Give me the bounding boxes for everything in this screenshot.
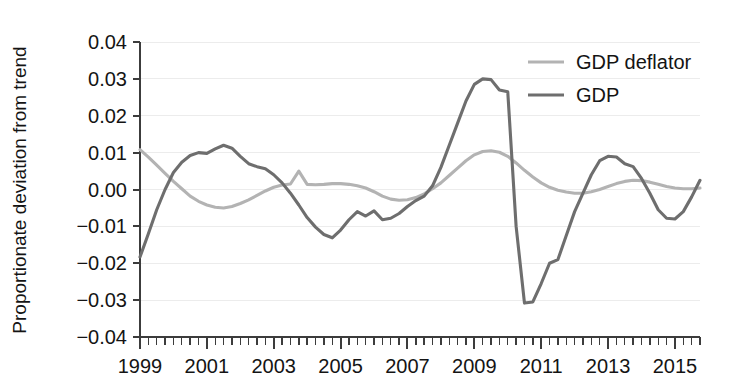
y-tick-label: 0.00 — [88, 179, 127, 201]
x-tick-label: 2015 — [653, 355, 698, 377]
y-tick-label: −0.02 — [76, 252, 127, 274]
y-tick-label: 0.02 — [88, 105, 127, 127]
x-tick-label: 2009 — [452, 355, 497, 377]
y-tick-label: 0.03 — [88, 68, 127, 90]
line-chart: 0.040.030.020.010.00−0.01−0.02−0.03−0.04… — [0, 0, 742, 389]
y-tick-label: −0.01 — [76, 215, 127, 237]
x-tick-label: 2013 — [586, 355, 631, 377]
y-tick-label: −0.03 — [76, 289, 127, 311]
y-tick-label: 0.01 — [88, 142, 127, 164]
x-tick-label: 2007 — [385, 355, 430, 377]
legend-label-gdp: GDP — [576, 84, 619, 106]
x-tick-label: 2005 — [318, 355, 363, 377]
x-axis-tick-labels: 199920012003200520072009201120132015 — [118, 355, 697, 377]
y-tick-label: 0.04 — [88, 31, 127, 53]
y-axis-title: Proportionate deviation from trend — [9, 46, 30, 333]
x-tick-label: 2003 — [251, 355, 296, 377]
x-tick-label: 2001 — [185, 355, 230, 377]
chart-container: 0.040.030.020.010.00−0.01−0.02−0.03−0.04… — [0, 0, 742, 389]
x-tick-label: 2011 — [520, 355, 563, 377]
legend-label-gdp-deflator: GDP deflator — [576, 51, 692, 73]
y-tick-label: −0.04 — [76, 326, 127, 348]
x-tick-label: 1999 — [118, 355, 163, 377]
